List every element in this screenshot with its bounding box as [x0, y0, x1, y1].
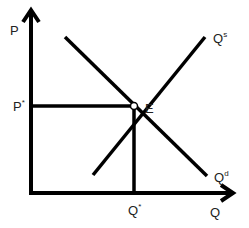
price-star-sup: *: [22, 98, 25, 107]
demand-label-base: Q: [214, 170, 224, 185]
equilibrium-label: E: [145, 102, 154, 115]
quantity-star-label: Q*: [128, 204, 141, 217]
price-star-base: P: [13, 99, 22, 114]
supply-label-sup: s: [223, 30, 227, 39]
quantity-star-base: Q: [128, 203, 138, 218]
supply-demand-diagram: [0, 0, 249, 228]
equilibrium-point: [131, 103, 138, 110]
y-axis-label: P: [10, 24, 19, 37]
supply-label-base: Q: [213, 31, 223, 46]
quantity-star-sup: *: [138, 202, 141, 211]
demand-label-sup: d: [224, 169, 228, 178]
x-axis-label: Q: [210, 206, 220, 219]
demand-label: Qd: [214, 171, 229, 184]
price-star-label: P*: [13, 100, 25, 113]
supply-label: Qs: [213, 32, 227, 45]
